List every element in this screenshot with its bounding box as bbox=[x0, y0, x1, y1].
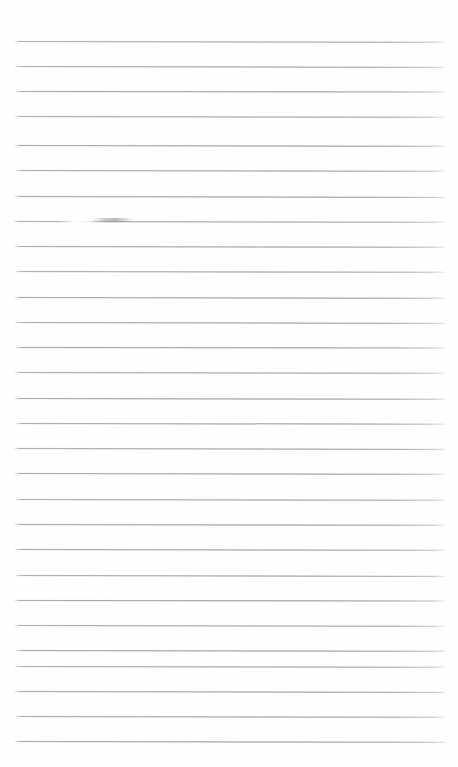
ruled-line bbox=[15, 600, 445, 602]
ruled-line bbox=[15, 41, 444, 43]
ruled-line bbox=[16, 271, 444, 273]
ruled-line bbox=[15, 297, 445, 299]
ruled-line bbox=[16, 347, 445, 349]
ruled-line bbox=[15, 524, 444, 526]
ruled-line bbox=[15, 666, 444, 668]
ruled-line bbox=[16, 575, 444, 577]
ruled-line bbox=[15, 691, 445, 693]
ruled-line bbox=[16, 499, 445, 501]
ruled-line bbox=[15, 372, 444, 374]
ruled-line bbox=[15, 398, 445, 400]
ruled-line bbox=[15, 448, 445, 450]
ruled-line bbox=[15, 549, 445, 551]
ruled-line bbox=[16, 170, 444, 172]
ruled-line bbox=[15, 145, 445, 147]
ruled-line bbox=[15, 116, 444, 118]
ruled-line bbox=[16, 650, 445, 652]
ruled-line bbox=[14, 221, 444, 223]
ruled-line bbox=[15, 246, 445, 248]
ruled-line bbox=[16, 716, 444, 718]
ruled-line bbox=[15, 322, 444, 324]
ruled-line bbox=[15, 741, 445, 743]
scanned-page bbox=[0, 0, 458, 767]
ruled-line bbox=[15, 66, 444, 68]
ruled-lines-group bbox=[0, 0, 458, 767]
ruled-line bbox=[15, 625, 444, 627]
ruled-line bbox=[16, 91, 445, 93]
ruled-line bbox=[16, 423, 444, 425]
ruled-line bbox=[15, 196, 445, 198]
ruled-line bbox=[15, 473, 444, 475]
